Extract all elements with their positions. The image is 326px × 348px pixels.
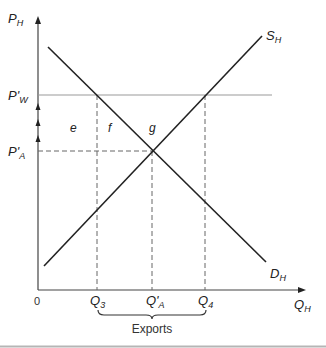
supply-label: SH xyxy=(266,28,282,45)
price-rise-arrow-icon xyxy=(36,119,41,126)
area-g-label: g xyxy=(149,121,156,135)
supply-curve xyxy=(44,36,262,266)
demand-label: DH xyxy=(270,266,286,283)
x-axis-label: QH xyxy=(294,297,311,314)
price-rise-arrow-icon xyxy=(36,103,41,110)
q4-label: Q4 xyxy=(198,293,213,310)
price-rise-arrow-icon xyxy=(36,135,41,142)
y-axis-label: PH xyxy=(8,11,24,28)
x-axis-arrow-icon xyxy=(298,287,306,293)
area-e-label: e xyxy=(70,121,77,135)
autarky-price-label: P'A xyxy=(8,144,25,161)
q3-label: Q3 xyxy=(90,293,105,310)
qa-label: Q'A xyxy=(146,293,165,310)
trade-diagram: PH QH 0 P'W P'A Q3 Q'A Q4 SH DH e f g Ex… xyxy=(0,0,326,348)
area-f-label: f xyxy=(108,121,113,135)
origin-label: 0 xyxy=(34,295,40,307)
demand-curve xyxy=(48,47,266,262)
y-axis-arrow-icon xyxy=(35,16,41,24)
exports-label: Exports xyxy=(132,322,173,336)
world-price-label: P'W xyxy=(8,88,29,105)
exports-brace xyxy=(98,310,206,319)
